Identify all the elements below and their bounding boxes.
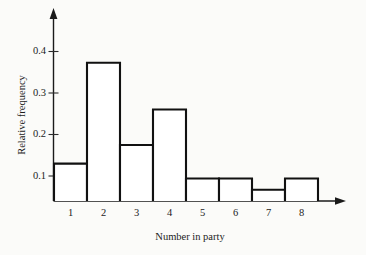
bar-2 — [87, 63, 120, 201]
x-tick-label-4: 4 — [167, 207, 173, 218]
y-axis-title: Relative frequency — [16, 74, 27, 154]
bar-1 — [54, 164, 87, 201]
relative-frequency-histogram: 0.1 0.2 0.3 0.4 12345678 Number in party… — [0, 0, 366, 255]
chart-page: 0.1 0.2 0.3 0.4 12345678 Number in party… — [0, 0, 366, 255]
y-tick-label-0.4: 0.4 — [33, 45, 47, 56]
bar-8 — [285, 179, 318, 201]
y-tick-label-0.3: 0.3 — [33, 87, 46, 98]
bar-3 — [120, 145, 153, 201]
bar-4 — [153, 109, 186, 201]
x-tick-label-5: 5 — [200, 207, 205, 218]
y-tick-label-0.1: 0.1 — [33, 170, 46, 181]
bar-5 — [186, 179, 219, 201]
y-tick-label-0.2: 0.2 — [33, 128, 46, 139]
x-tick-label-3: 3 — [134, 207, 139, 218]
x-tick-label-1: 1 — [68, 207, 73, 218]
x-tick-label-6: 6 — [233, 207, 238, 218]
x-tick-label-2: 2 — [101, 207, 106, 218]
bar-7 — [252, 190, 285, 201]
x-tick-label-7: 7 — [266, 207, 271, 218]
x-axis-title: Number in party — [155, 231, 225, 242]
bar-6 — [219, 179, 252, 201]
x-tick-label-8: 8 — [299, 207, 304, 218]
